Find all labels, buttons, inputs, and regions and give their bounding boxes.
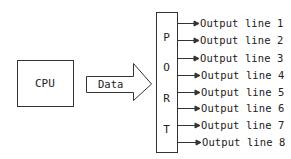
output-line-6: Output line 6 (201, 103, 284, 114)
port-diagram: CPU Data P O R T Output line 1 Output li… (0, 0, 291, 159)
port-letter-t: T (156, 124, 177, 135)
port-letter-o: O (156, 62, 177, 73)
output-line-7: Output line 7 (201, 120, 284, 131)
port-letter-p: P (156, 32, 177, 43)
output-line-5: Output line 5 (201, 87, 284, 98)
output-line-3: Output line 3 (200, 53, 283, 64)
output-arrows (178, 21, 202, 145)
port-letter-r: R (156, 93, 177, 104)
output-line-1: Output line 1 (200, 18, 283, 29)
output-line-8: Output line 8 (202, 137, 285, 148)
cpu-label: CPU (35, 78, 55, 89)
output-line-2: Output line 2 (200, 35, 283, 46)
data-bus-label: Data (98, 79, 123, 90)
output-line-4: Output line 4 (201, 70, 284, 81)
